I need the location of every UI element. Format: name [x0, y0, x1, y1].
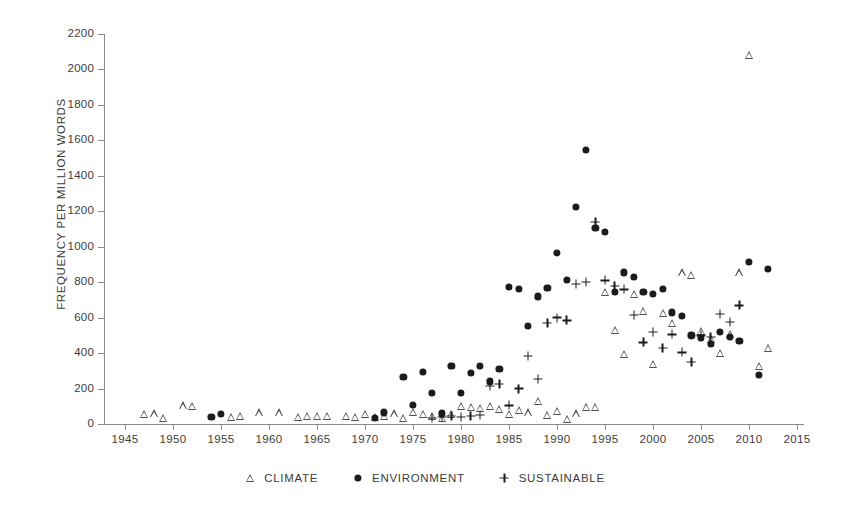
plus-icon — [457, 412, 466, 421]
y-axis-tick — [98, 69, 104, 70]
plus-icon — [437, 412, 446, 421]
plus-icon — [543, 318, 552, 327]
plus-icon — [562, 316, 571, 325]
plus-icon — [572, 279, 581, 288]
plus-icon — [591, 217, 600, 226]
x-axis-tick — [221, 425, 222, 430]
legend-label: ENVIRONMENT — [372, 472, 465, 484]
triangle-open-icon-glyph — [246, 474, 254, 482]
plus-icon — [514, 384, 523, 393]
x-axis-tick — [653, 425, 654, 430]
x-axis-tick — [557, 425, 558, 430]
legend-label: SUSTAINABLE — [519, 472, 605, 484]
legend-entry-environment[interactable]: ENVIRONMENT — [352, 472, 465, 484]
plus-icon — [447, 412, 456, 421]
plus-icon — [581, 278, 590, 287]
plus-icon — [706, 333, 715, 342]
y-axis-tick — [98, 140, 104, 141]
plus-icon — [553, 313, 562, 322]
legend-entry-sustainable[interactable]: SUSTAINABLE — [499, 472, 605, 484]
y-axis-tick — [98, 211, 104, 212]
plus-icon — [629, 310, 638, 319]
x-axis-tick — [317, 425, 318, 430]
x-axis-tick — [413, 425, 414, 430]
plus-icon — [735, 301, 744, 310]
plus-icon — [620, 285, 629, 294]
triangle-open-icon — [244, 473, 255, 484]
y-axis-tick-label: 0 — [34, 418, 94, 430]
circle-filled-icon-glyph — [354, 474, 361, 481]
y-axis-tick — [98, 389, 104, 390]
y-axis-tick — [98, 176, 104, 177]
plus-icon — [677, 348, 686, 357]
x-axis-tick — [461, 425, 462, 430]
plot-area — [105, 34, 805, 424]
series-sustainable — [105, 34, 805, 424]
y-axis-title: FREQUENCY PER MILLION WORDS — [55, 39, 67, 369]
plus-icon — [533, 374, 542, 383]
chart-legend: CLIMATEENVIRONMENTSUSTAINABLE — [0, 472, 849, 484]
plus-icon — [668, 330, 677, 339]
x-axis-tick — [797, 425, 798, 430]
plus-icon — [649, 327, 658, 336]
plus-icon — [499, 473, 510, 484]
legend-entry-climate[interactable]: CLIMATE — [244, 472, 318, 484]
y-axis-tick — [98, 282, 104, 283]
x-axis-tick — [701, 425, 702, 430]
plus-icon — [428, 413, 437, 422]
y-axis-tick — [98, 353, 104, 354]
plus-icon — [716, 310, 725, 319]
plus-icon — [725, 318, 734, 327]
y-axis-tick-label: 200 — [34, 383, 94, 395]
y-axis-tick — [98, 318, 104, 319]
x-axis-spine — [104, 424, 804, 425]
plus-icon — [495, 380, 504, 389]
scatter-chart-figure: 2200200018001600140012001000800600400200… — [0, 0, 849, 509]
x-axis-tick — [125, 425, 126, 430]
plus-icon — [658, 343, 667, 352]
x-axis-tick — [749, 425, 750, 430]
x-axis-tick — [365, 425, 366, 430]
y-axis-tick — [98, 247, 104, 248]
y-axis-tick — [98, 34, 104, 35]
plus-icon — [687, 357, 696, 366]
plus-icon-glyph — [500, 474, 509, 483]
x-axis-tick — [173, 425, 174, 430]
circle-filled-icon — [352, 473, 363, 484]
plus-icon — [697, 331, 706, 340]
y-axis-tick — [98, 424, 104, 425]
plus-icon — [476, 411, 485, 420]
plus-icon — [485, 381, 494, 390]
plus-icon — [601, 276, 610, 285]
x-axis-tick — [509, 425, 510, 430]
plus-icon — [466, 412, 475, 421]
plus-icon — [610, 281, 619, 290]
plus-icon — [505, 401, 514, 410]
x-axis-tick — [605, 425, 606, 430]
plus-icon — [524, 351, 533, 360]
legend-label: CLIMATE — [264, 472, 318, 484]
y-axis-tick-label: 2200 — [34, 28, 94, 40]
y-axis-tick — [98, 105, 104, 106]
x-axis-tick-label: 2015 — [762, 434, 832, 446]
x-axis-tick — [269, 425, 270, 430]
plus-icon — [639, 338, 648, 347]
